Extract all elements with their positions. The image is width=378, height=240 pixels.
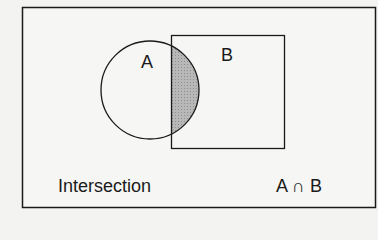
caption-intersection: Intersection bbox=[58, 177, 151, 195]
set-a-label: A bbox=[141, 53, 153, 71]
intersection-notation: A ∩ B bbox=[276, 177, 322, 195]
set-b-label: B bbox=[221, 46, 233, 64]
